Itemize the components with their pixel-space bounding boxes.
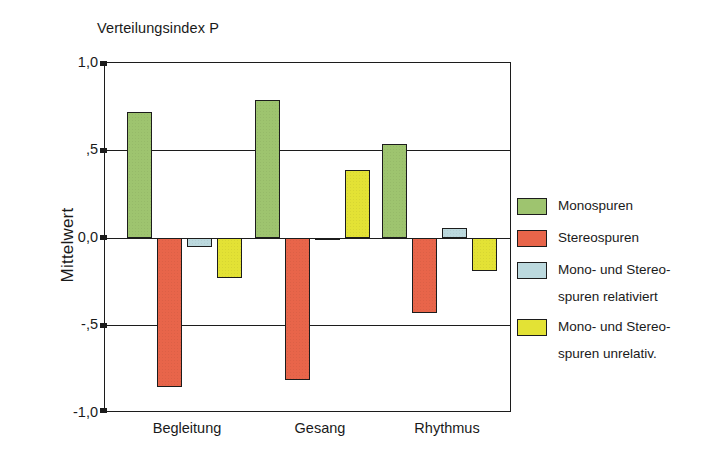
- y-tick-mark-1: [100, 61, 107, 66]
- bar-texture: [188, 239, 211, 246]
- chart-legend: Monospuren Stereospuren Mono- und Stereo…: [517, 196, 707, 374]
- y-tick-label-5: -1,0: [38, 404, 98, 420]
- legend-label-relativiert-line2: spuren relativiert: [558, 287, 707, 306]
- bar-texture: [346, 171, 369, 237]
- chart-title: Verteilungsindex P: [97, 20, 219, 36]
- bar: [157, 238, 182, 387]
- bar: [412, 238, 437, 313]
- bar: [187, 238, 212, 247]
- bar-texture: [383, 145, 406, 238]
- bar-texture: [286, 239, 309, 379]
- legend-swatch-relativiert: [517, 262, 547, 279]
- legend-label-relativiert-line1: Mono- und Stereo-: [558, 260, 707, 279]
- bar-texture: [443, 229, 466, 238]
- legend-label-unrelativ-line2: spuren unrelativ.: [558, 344, 707, 363]
- legend-item-unrelativ[interactable]: Mono- und Stereo- spuren unrelativ.: [517, 317, 707, 363]
- bar-texture: [218, 239, 241, 277]
- x-tick-label-gesang: Gesang: [265, 420, 375, 436]
- y-tick-mark-5: [100, 408, 107, 413]
- bar: [382, 144, 407, 239]
- y-tick-label-2: ,5: [38, 141, 98, 157]
- legend-label-stereospuren: Stereospuren: [558, 228, 707, 247]
- plot-area: [104, 62, 511, 412]
- gridline-0_5: [105, 150, 510, 151]
- bar-texture: [256, 101, 279, 237]
- y-tick-label-3: 0,0: [38, 229, 98, 245]
- legend-item-monospuren[interactable]: Monospuren: [517, 196, 707, 217]
- legend-swatch-stereospuren: [517, 230, 547, 247]
- bar: [127, 112, 152, 238]
- legend-swatch-unrelativ: [517, 319, 547, 336]
- bar-texture: [158, 239, 181, 386]
- bar: [442, 228, 467, 239]
- y-tick-label-1: 1,0: [38, 54, 98, 70]
- legend-label-unrelativ-line1: Mono- und Stereo-: [558, 317, 707, 336]
- bar-texture: [128, 113, 151, 237]
- bar: [315, 238, 340, 240]
- y-tick-mark-3: [100, 235, 107, 240]
- x-tick-label-begleitung: Begleitung: [132, 420, 242, 436]
- bar: [285, 238, 310, 380]
- y-tick-label-4: -,5: [38, 316, 98, 332]
- legend-label-monospuren: Monospuren: [558, 196, 707, 215]
- bar: [255, 100, 280, 238]
- chart-canvas: Verteilungsindex P Mittelwert 1,0 ,5 0,0…: [0, 0, 708, 469]
- y-axis-title: Mittelwert: [58, 155, 78, 335]
- legend-swatch-monospuren: [517, 198, 547, 215]
- legend-item-stereospuren[interactable]: Stereospuren: [517, 228, 707, 249]
- bar-texture: [473, 239, 496, 270]
- y-tick-mark-2: [100, 148, 107, 153]
- legend-item-relativiert[interactable]: Mono- und Stereo- spuren relativiert: [517, 260, 707, 306]
- bar-texture: [413, 239, 436, 312]
- bar: [345, 170, 370, 238]
- y-tick-mark-4: [100, 323, 107, 328]
- x-tick-label-rhythmus: Rhythmus: [392, 420, 502, 436]
- bar: [217, 238, 242, 278]
- bar: [472, 238, 497, 271]
